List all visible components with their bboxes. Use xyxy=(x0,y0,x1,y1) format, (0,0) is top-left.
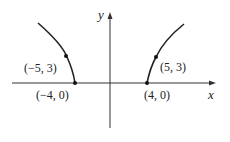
y-axis-arrow-icon xyxy=(108,12,113,19)
point-5-3 xyxy=(154,55,158,59)
point-neg5-3 xyxy=(64,54,68,58)
x-axis-arrow-icon xyxy=(209,81,216,86)
point-label-neg4-0: (−4, 0) xyxy=(36,89,69,101)
point-label-5-3: (5, 3) xyxy=(160,61,186,73)
hyperbola-diagram: y x (−5, 3) (−4, 0) (5, 3) (4, 0) xyxy=(0,0,230,142)
right-branch-curve xyxy=(147,24,184,83)
point-neg4-0 xyxy=(73,81,77,85)
point-label-neg5-3: (−5, 3) xyxy=(24,62,57,74)
point-4-0 xyxy=(145,81,149,85)
point-label-4-0: (4, 0) xyxy=(144,89,170,101)
x-axis-label: x xyxy=(208,88,214,101)
y-axis-label: y xyxy=(98,8,104,21)
